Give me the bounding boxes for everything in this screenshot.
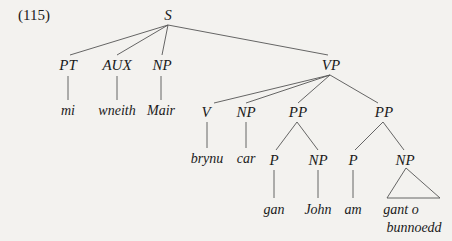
- word-gan: gan: [264, 203, 285, 217]
- node-vp: VP: [322, 58, 340, 73]
- node-pp-2: PP: [375, 105, 393, 120]
- word-mair: Mair: [147, 104, 175, 118]
- node-pp-1: PP: [289, 105, 307, 120]
- syntax-tree-diagram: (115) S PT AUX NP VP mi wneith Mair V NP…: [0, 0, 452, 241]
- word-bunnoedd: bunnoedd: [386, 221, 441, 235]
- word-gant-o: gant o: [383, 203, 418, 217]
- word-wneith: wneith: [98, 104, 135, 118]
- node-np-object: NP: [236, 105, 255, 120]
- node-p-1: P: [269, 153, 278, 168]
- word-john: John: [304, 203, 331, 217]
- word-brynu: brynu: [191, 152, 224, 166]
- node-v: V: [201, 105, 210, 120]
- word-car: car: [237, 152, 256, 166]
- example-number: (115): [18, 8, 50, 23]
- node-pt: PT: [59, 58, 77, 73]
- node-s: S: [164, 8, 172, 23]
- node-np-pp-1: NP: [308, 153, 327, 168]
- word-am: am: [344, 203, 361, 217]
- node-np-pp-2: NP: [395, 153, 414, 168]
- word-mi: mi: [61, 104, 75, 118]
- node-aux: AUX: [102, 58, 131, 73]
- node-p-2: P: [348, 153, 357, 168]
- node-np-subject: NP: [152, 58, 171, 73]
